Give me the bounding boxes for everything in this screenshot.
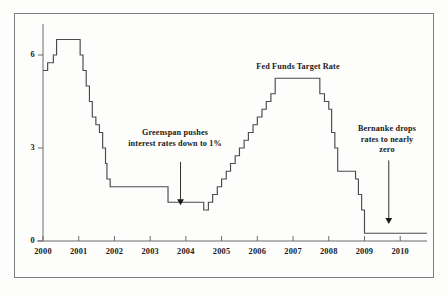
- annotation-line: Fed Funds Target Rate: [243, 62, 353, 73]
- x-tick-marks: [43, 236, 400, 241]
- annotation-line: interest rates down to 1%: [114, 139, 236, 150]
- figure-container: 036 200020012002200320042005200620072008…: [0, 0, 448, 296]
- annotation-arrows: [177, 160, 392, 224]
- annotation-line: zero: [347, 145, 427, 156]
- x-tick-label: 2006: [240, 247, 274, 256]
- x-tick-label: 2004: [169, 247, 203, 256]
- y-axis: [38, 24, 43, 241]
- figure-caption: [22, 283, 432, 295]
- x-tick-label: 2010: [383, 247, 417, 256]
- x-tick-label: 2008: [312, 247, 346, 256]
- x-tick-label: 2003: [133, 247, 167, 256]
- x-tick-label: 2001: [62, 247, 96, 256]
- x-axis: [37, 236, 427, 241]
- annotation-bernanke: Bernanke dropsrates to nearlyzero: [347, 124, 427, 156]
- y-tick-label: 6: [19, 50, 35, 59]
- y-tick-label: 3: [19, 143, 35, 152]
- x-tick-label: 2002: [97, 247, 131, 256]
- annotation-greenspan: Greenspan pushesinterest rates down to 1…: [114, 128, 236, 149]
- x-tick-label: 2007: [276, 247, 310, 256]
- annotation-line: Bernanke drops: [347, 124, 427, 135]
- y-tick-label: 0: [19, 236, 35, 245]
- x-tick-label: 2005: [205, 247, 239, 256]
- x-tick-label: 2000: [26, 247, 60, 256]
- annotation-line: rates to nearly: [347, 135, 427, 146]
- annotation-line: Greenspan pushes: [114, 128, 236, 139]
- chart-title: Fed Funds Target Rate: [243, 62, 353, 73]
- y-tick-marks: [38, 55, 43, 241]
- x-tick-label: 2009: [347, 247, 381, 256]
